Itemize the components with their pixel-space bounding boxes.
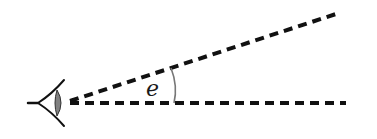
upper-sight-line — [70, 14, 336, 101]
angle-label: e — [146, 76, 159, 101]
angle-arc — [171, 68, 175, 103]
angle-diagram: e — [0, 0, 377, 139]
eye-icon — [28, 80, 64, 126]
